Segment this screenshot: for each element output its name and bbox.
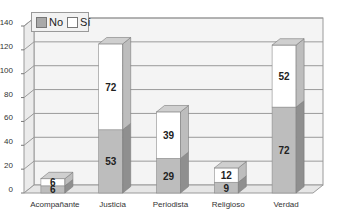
bar-side <box>181 152 189 193</box>
stacked-bar-chart: 02040608010012014066Acompañante5372Justi… <box>0 0 338 220</box>
data-label: 52 <box>279 71 291 82</box>
bar-side <box>123 123 131 193</box>
x-category-label: Acompañante <box>30 200 80 209</box>
y-tick-label: 20 <box>4 161 13 170</box>
legend-item-no: No <box>36 16 63 28</box>
legend-label-si: Sí <box>80 16 90 28</box>
y-tick-label: 140 <box>0 18 14 27</box>
chart-canvas: 02040608010012014066Acompañante5372Justi… <box>0 0 338 220</box>
data-label: 72 <box>105 82 117 93</box>
y-tick-label: 40 <box>4 137 13 146</box>
y-tick-label: 80 <box>4 90 13 99</box>
y-tick-label: 0 <box>9 185 14 194</box>
data-label: 29 <box>163 171 175 182</box>
data-label: 53 <box>105 156 117 167</box>
data-label: 9 <box>224 183 230 194</box>
x-category-label: Periodista <box>153 200 189 209</box>
y-tick-label: 100 <box>0 66 14 75</box>
bar-side <box>296 101 304 193</box>
legend-swatch-no <box>36 17 47 28</box>
data-label: 72 <box>279 145 291 156</box>
bar-side <box>181 105 189 158</box>
data-label: 39 <box>163 130 175 141</box>
legend-label-no: No <box>49 16 63 28</box>
y-tick-label: 120 <box>0 42 14 51</box>
data-label: 12 <box>221 170 233 181</box>
x-category-label: Religioso <box>212 200 245 209</box>
x-category-label: Verdad <box>273 200 298 209</box>
y-tick-label: 60 <box>4 113 13 122</box>
bar-side <box>296 39 304 107</box>
legend-swatch-si <box>67 17 78 28</box>
legend-item-si: Sí <box>67 16 90 28</box>
x-category-label: Justicia <box>99 200 126 209</box>
plot-side-wall <box>24 18 34 193</box>
chart-legend: No Sí <box>31 12 89 32</box>
data-label: 6 <box>50 177 56 188</box>
bar-side <box>123 37 131 129</box>
